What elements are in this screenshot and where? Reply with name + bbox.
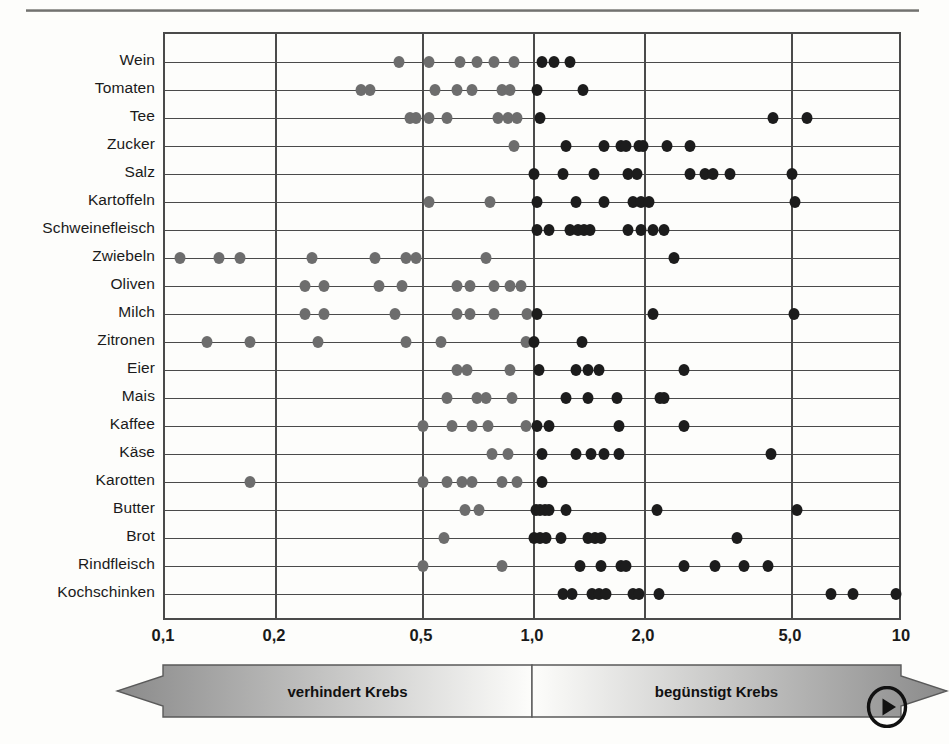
data-point (766, 448, 777, 460)
data-point (636, 224, 647, 236)
data-point (487, 448, 498, 460)
data-point (464, 308, 475, 320)
data-point (555, 532, 566, 544)
data-point (474, 504, 485, 516)
data-point (662, 140, 673, 152)
data-point (389, 308, 400, 320)
data-point (599, 140, 610, 152)
data-point (313, 336, 324, 348)
data-point (612, 392, 623, 404)
data-point (497, 476, 508, 488)
data-point (623, 224, 634, 236)
data-point (541, 532, 552, 544)
data-point (508, 56, 519, 68)
data-point (891, 588, 902, 600)
data-point (621, 140, 632, 152)
play-icon[interactable] (866, 686, 908, 728)
data-point (535, 112, 546, 124)
data-point (586, 448, 597, 460)
category-baseline (165, 258, 899, 259)
category-label-zucker: Zucker (107, 135, 155, 153)
category-label-wein: Wein (120, 51, 155, 69)
data-point (467, 84, 478, 96)
data-point (601, 588, 612, 600)
category-label-mais: Mais (122, 387, 155, 405)
data-point (300, 308, 311, 320)
category-label-oliven: Oliven (110, 275, 155, 293)
category-label-eier: Eier (127, 359, 155, 377)
data-point (679, 420, 690, 432)
data-point (644, 196, 655, 208)
category-label-kartoffeln: Kartoffeln (88, 191, 155, 209)
data-point (786, 168, 797, 180)
data-point (441, 112, 452, 124)
data-point (791, 504, 802, 516)
x-tick-label: 2,0 (632, 626, 655, 645)
data-point (790, 196, 801, 208)
data-point (558, 168, 569, 180)
data-point (634, 588, 645, 600)
data-point (529, 336, 540, 348)
data-point (725, 168, 736, 180)
data-point (480, 252, 491, 264)
data-point (300, 280, 311, 292)
data-point (452, 308, 463, 320)
category-baseline (165, 118, 899, 119)
data-point (679, 560, 690, 572)
data-point (847, 588, 858, 600)
data-point (235, 252, 246, 264)
data-point (560, 392, 571, 404)
data-point (685, 168, 696, 180)
data-point (577, 336, 588, 348)
data-point (504, 364, 515, 376)
category-label-salz: Salz (124, 163, 155, 181)
x-tick-label: 0,5 (409, 626, 432, 645)
plot-area (163, 32, 901, 620)
data-point (512, 476, 523, 488)
data-point (506, 392, 517, 404)
data-point (411, 112, 422, 124)
data-point (532, 420, 543, 432)
data-point (658, 224, 669, 236)
data-point (631, 168, 642, 180)
data-point (504, 280, 515, 292)
data-point (588, 168, 599, 180)
data-point (462, 364, 473, 376)
top-divider-rule (26, 9, 919, 12)
data-point (582, 364, 593, 376)
data-point (571, 196, 582, 208)
annotation-prevents-cancer: verhindert Krebs (163, 683, 532, 700)
data-point (393, 56, 404, 68)
data-point (574, 560, 585, 572)
data-point (596, 532, 607, 544)
data-point (532, 196, 543, 208)
data-point (245, 476, 256, 488)
data-point (411, 252, 422, 264)
data-point (707, 168, 718, 180)
data-point (482, 420, 493, 432)
data-point (532, 308, 543, 320)
data-point (504, 84, 515, 96)
data-point (467, 476, 478, 488)
data-point (768, 112, 779, 124)
category-label-karotten: Karotten (96, 471, 155, 489)
category-baseline (165, 398, 899, 399)
category-label-kaffee: Kaffee (110, 415, 155, 433)
data-point (417, 476, 428, 488)
gridline-vertical (422, 34, 424, 618)
data-point (365, 84, 376, 96)
category-label-schweinefleisch: Schweinefleisch (42, 219, 155, 237)
data-point (710, 560, 721, 572)
category-label-tomaten: Tomaten (95, 79, 155, 97)
data-point (548, 56, 559, 68)
data-point (464, 280, 475, 292)
data-point (593, 364, 604, 376)
data-point (430, 84, 441, 96)
data-point (532, 84, 543, 96)
data-point (732, 532, 743, 544)
category-baseline (165, 146, 899, 147)
data-point (319, 280, 330, 292)
data-point (567, 588, 578, 600)
x-tick-label: 5,0 (778, 626, 801, 645)
category-baseline (165, 286, 899, 287)
